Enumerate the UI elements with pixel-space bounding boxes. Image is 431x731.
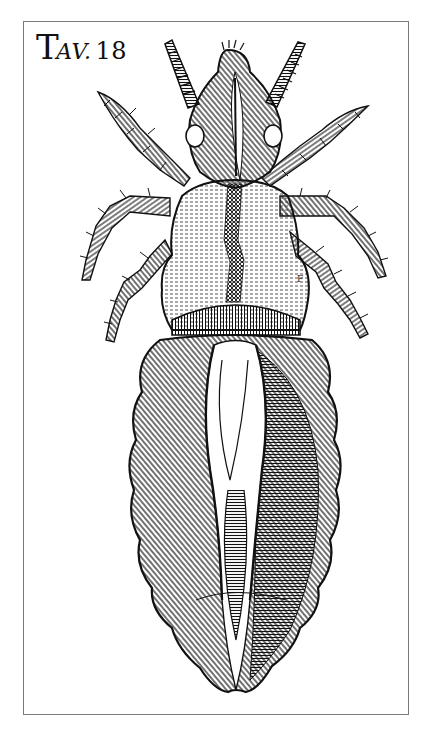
abdomen (129, 335, 340, 692)
right-eye (264, 125, 282, 147)
left-antenna (165, 40, 199, 108)
insect-engraving (0, 0, 431, 731)
thorax (162, 180, 309, 335)
head (186, 40, 282, 188)
left-front-leg (98, 92, 190, 186)
head-bristles (222, 40, 244, 50)
left-eye (186, 125, 204, 147)
right-antenna (266, 42, 305, 107)
plate-letter-mark: F (297, 274, 303, 284)
